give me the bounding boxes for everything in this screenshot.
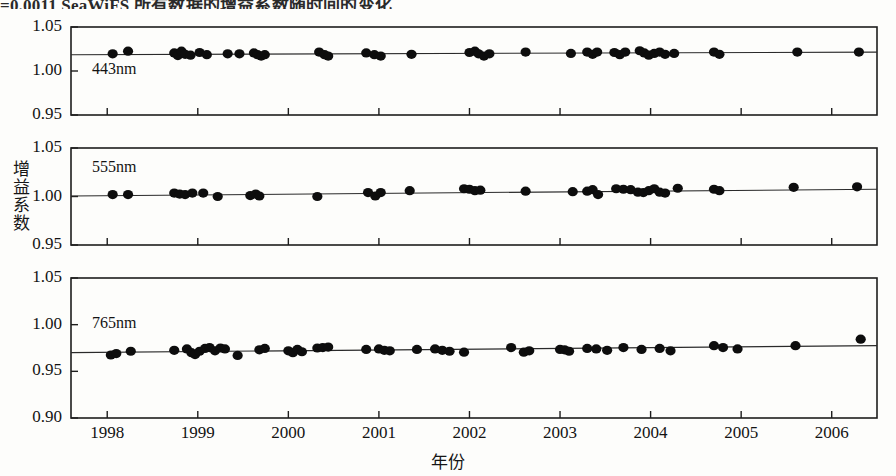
data-point [660, 189, 670, 198]
data-point [323, 51, 333, 60]
data-point [714, 50, 724, 59]
y-tick-label: 1.05 [4, 137, 62, 157]
data-point [789, 183, 799, 192]
data-point [655, 344, 665, 353]
data-point [852, 182, 862, 191]
y-tick-label: 0.90 [4, 407, 62, 427]
data-point [198, 189, 208, 198]
data-point [620, 47, 630, 56]
x-tick-label: 2002 [434, 423, 504, 443]
y-tick-label: 0.95 [4, 104, 62, 124]
data-point [591, 344, 601, 353]
data-point [126, 347, 136, 356]
x-axis-label: 年份 [0, 448, 896, 473]
data-point [297, 347, 307, 356]
data-point [568, 187, 578, 196]
y-tick-label: 1.00 [4, 60, 62, 80]
data-point [376, 188, 386, 197]
data-point [223, 49, 233, 58]
y-tick-label: 1.05 [4, 16, 62, 36]
data-point [592, 47, 602, 56]
data-point [406, 50, 416, 59]
data-point [618, 343, 628, 352]
data-point [718, 343, 728, 352]
data-point [385, 346, 395, 355]
x-tick-label: 2006 [797, 423, 867, 443]
plot-frame-443nm [71, 27, 877, 115]
panel-label-443nm: 443nm [92, 60, 136, 78]
x-tick-label: 2001 [344, 423, 414, 443]
data-point [444, 347, 454, 356]
data-point [714, 186, 724, 195]
data-point [254, 191, 264, 200]
data-point [111, 349, 121, 358]
data-point [709, 341, 719, 350]
data-point [792, 47, 802, 56]
data-point [475, 186, 485, 195]
data-point [459, 348, 469, 357]
data-point [524, 346, 534, 355]
data-point [412, 345, 422, 354]
panel-label-765nm: 765nm [92, 314, 136, 332]
x-tick-label: 2005 [706, 423, 776, 443]
y-tick-label: 1.05 [4, 267, 62, 287]
data-point [582, 344, 592, 353]
y-tick-label: 1.00 [4, 186, 62, 206]
data-point [169, 346, 179, 355]
x-tick-label: 2000 [253, 423, 323, 443]
data-point [260, 50, 270, 59]
y-tick-label: 0.95 [4, 234, 62, 254]
data-point [185, 51, 195, 60]
data-point [660, 50, 670, 59]
data-point [123, 47, 133, 56]
data-point [108, 190, 118, 199]
data-point [521, 187, 531, 196]
figure-caption: =0.0011 SeaWiFS 所有数据的增益系数随时间的变化 [0, 0, 700, 9]
data-point [361, 345, 371, 354]
data-point [790, 341, 800, 350]
y-tick-label: 1.00 [4, 314, 62, 334]
data-point [602, 346, 612, 355]
figure-container: =0.0011 SeaWiFS 所有数据的增益系数随时间的变化 增益系数 年份 … [0, 0, 896, 476]
data-point [593, 190, 603, 199]
data-point [233, 351, 243, 360]
data-point [566, 49, 576, 58]
data-point [521, 47, 531, 56]
data-point [484, 49, 494, 58]
data-point [234, 49, 244, 58]
data-point [636, 345, 646, 354]
data-point [202, 50, 212, 59]
panel-label-555nm: 555nm [92, 158, 136, 176]
data-point [220, 344, 230, 353]
data-point [564, 347, 574, 356]
data-point [187, 189, 197, 198]
data-point [665, 346, 675, 355]
x-tick-label: 1999 [163, 423, 233, 443]
y-tick-label: 0.95 [4, 360, 62, 380]
data-point [405, 186, 415, 195]
x-tick-label: 2003 [525, 423, 595, 443]
data-point [506, 343, 516, 352]
data-point [123, 190, 133, 199]
data-point [213, 192, 223, 201]
data-point [376, 51, 386, 60]
data-point [312, 192, 322, 201]
x-tick-label: 1998 [72, 423, 142, 443]
data-point [260, 344, 270, 353]
data-point [856, 335, 866, 344]
data-point [673, 184, 683, 193]
data-point [108, 49, 118, 58]
data-point [669, 49, 679, 58]
data-point [732, 344, 742, 353]
x-tick-label: 2004 [616, 423, 686, 443]
data-point [323, 342, 333, 351]
data-point [854, 47, 864, 56]
